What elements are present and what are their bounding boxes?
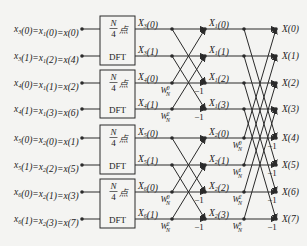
twiddle-factor-label: W0N xyxy=(160,194,171,206)
fraction-numerator: N xyxy=(109,181,117,191)
dft-label: DFT xyxy=(109,52,127,62)
output-label: X(0) xyxy=(281,24,299,35)
node-dot xyxy=(274,107,278,111)
twiddle-factor-label: W1N xyxy=(232,167,243,179)
input-label: x6(0)=x2(1)=x(3) xyxy=(13,187,79,202)
output-label: X(3) xyxy=(281,104,299,115)
input-labels: x3(0)=x1(0)=x(0)x3(1)=x1(2)=x(4)x4(0)=x1… xyxy=(13,24,100,229)
minus-one-label: −1 xyxy=(267,168,277,178)
twiddle-factor-label: W2N xyxy=(160,111,171,123)
node-dot xyxy=(274,190,278,194)
node-dot xyxy=(274,54,278,58)
node-dot xyxy=(274,81,278,85)
output-label: X(5) xyxy=(281,160,299,171)
fraction-numerator: N xyxy=(109,72,117,82)
output-label: X(6) xyxy=(281,187,299,198)
twiddle-factor-label: W2N xyxy=(160,221,171,233)
fraction-denominator: 4 xyxy=(111,29,116,39)
fraction-denominator: 4 xyxy=(111,83,116,93)
fraction-denominator: 4 xyxy=(111,138,116,148)
twiddle-factor-label: W3N xyxy=(232,221,243,233)
node-dot xyxy=(274,163,278,167)
point-suffix: 点 xyxy=(119,134,129,144)
input-label: x3(1)=x1(2)=x(4) xyxy=(13,51,79,66)
node-dot xyxy=(274,27,278,31)
input-label: x4(1)=x1(3)=x(6) xyxy=(13,104,79,119)
output-label: X(2) xyxy=(281,78,299,89)
twiddle-factor-label: W0N xyxy=(232,140,243,152)
output-label: X(4) xyxy=(281,133,299,144)
minus-one-label: −1 xyxy=(267,141,277,151)
dft-block: N4点DFT xyxy=(100,179,135,228)
input-label: x3(0)=x1(0)=x(0) xyxy=(13,24,79,39)
point-suffix: 点 xyxy=(119,79,129,89)
stage1-butterflies: X3(0)X3(1)X4(0)X4(1)X5(0)X5(1)X6(0)X6(1)… xyxy=(135,18,229,233)
stage2-butterflies: −1−1−1−1W0NW1NW2NW3N xyxy=(205,27,277,233)
point-suffix: 点 xyxy=(119,25,129,35)
twiddle-factor-label: W0N xyxy=(160,85,171,97)
node-dot xyxy=(274,136,278,140)
dft-label: DFT xyxy=(109,161,127,171)
minus-one-label: −1 xyxy=(194,222,204,232)
point-suffix: 点 xyxy=(119,188,129,198)
fraction-denominator: 4 xyxy=(111,192,116,202)
output-label: X(1) xyxy=(281,51,299,62)
dft-blocks: N4点DFTN4点DFTN4点DFTN4点DFT xyxy=(100,16,135,228)
minus-one-label: −1 xyxy=(194,112,204,122)
input-label: x4(0)=x1(1)=x(2) xyxy=(13,78,79,93)
dft-label: DFT xyxy=(109,215,127,225)
dft-block: N4点DFT xyxy=(100,125,135,174)
minus-one-label: −1 xyxy=(267,222,277,232)
dft-block: N4点DFT xyxy=(100,16,135,65)
fft-butterfly-diagram: x3(0)=x1(0)=x(0)x3(1)=x1(2)=x(4)x4(0)=x1… xyxy=(0,0,307,246)
output-labels: X(0)X(1)X(2)X(3)X(4)X(5)X(6)X(7) xyxy=(274,24,299,225)
node-dot xyxy=(274,217,278,221)
dft-block: N4点DFT xyxy=(100,70,135,118)
twiddle-factor-label: W2N xyxy=(232,194,243,206)
output-label: X(7) xyxy=(281,214,299,225)
input-label: x5(1)=x2(2)=x(5) xyxy=(13,160,79,175)
input-label: x6(1)=x2(3)=x(7) xyxy=(13,214,79,229)
fraction-numerator: N xyxy=(109,18,117,28)
fraction-numerator: N xyxy=(109,127,117,137)
input-label: x5(0)=x2(0)=x(1) xyxy=(13,133,79,148)
dft-label: DFT xyxy=(109,105,127,115)
